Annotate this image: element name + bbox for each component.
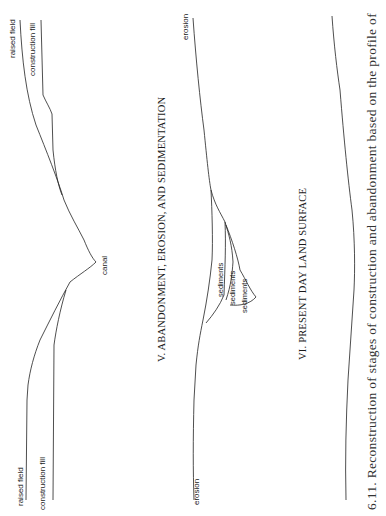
label-sediments-3: sediments <box>240 279 249 313</box>
label-construction-fill-bottom: construction fill <box>38 457 47 510</box>
raised-field-profile <box>20 20 96 500</box>
diagram-canvas: raised field construction fill canal rai… <box>0 0 386 516</box>
label-sediments-1: sediments <box>216 263 225 297</box>
label-construction-fill-top: construction fill <box>28 23 37 76</box>
present-day-surface-line <box>332 16 355 500</box>
construction-fill-line <box>41 20 66 500</box>
label-raised-field-top: raised field <box>8 19 17 58</box>
label-canal: canal <box>100 256 109 275</box>
figure-caption: 6.11. Reconstruction of stages of constr… <box>364 13 379 510</box>
label-erosion-top: erosion <box>181 14 190 40</box>
figure-6-11: raised field construction fill canal rai… <box>0 0 386 516</box>
label-raised-field-bottom: raised field <box>16 467 25 506</box>
stage-v-surface-line <box>193 18 212 500</box>
raised-field-surface-line <box>20 20 96 500</box>
sediment-layer-1 <box>206 190 225 323</box>
label-sediments-2: sediments <box>228 271 237 305</box>
stage-v-profile <box>193 18 256 500</box>
stage-vi-title: VI. PRESENT DAY LAND SURFACE <box>297 188 308 360</box>
stage-v-title: V. ABANDONMENT, EROSION, AND SEDIMENTATI… <box>156 96 167 362</box>
label-erosion-bottom: erosion <box>192 479 201 505</box>
